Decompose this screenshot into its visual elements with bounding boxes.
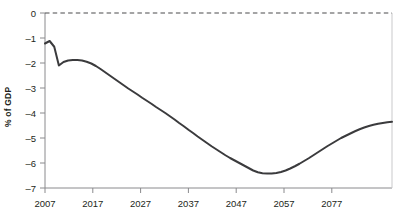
x-tick-label-2077: 2077 — [321, 198, 342, 209]
chart-canvas: 0 –1 –2 –3 –4 –5 –6 –7 2007 2017 2027 20… — [0, 0, 408, 221]
x-tick-label-2017: 2017 — [82, 198, 103, 209]
x-tick-label-2007: 2007 — [34, 198, 55, 209]
y-tick-label-2: –2 — [25, 58, 36, 69]
x-tick-label-2027: 2027 — [130, 198, 151, 209]
y-tick-label-0: 0 — [31, 8, 36, 19]
x-tick-label-2047: 2047 — [226, 198, 247, 209]
chart-figure: 0 –1 –2 –3 –4 –5 –6 –7 2007 2017 2027 20… — [0, 0, 408, 221]
y-tick-label-3: –3 — [25, 83, 36, 94]
y-tick-label-5: –5 — [25, 133, 36, 144]
y-tick-label-1: –1 — [25, 33, 36, 44]
y-tick-label-4: –4 — [25, 108, 36, 119]
x-tick-label-2057: 2057 — [273, 198, 294, 209]
y-tick-label-6: –6 — [25, 158, 36, 169]
y-tick-label-7: –7 — [25, 183, 36, 194]
y-axis-title: % of GDP — [3, 87, 13, 127]
x-tick-label-2037: 2037 — [178, 198, 199, 209]
